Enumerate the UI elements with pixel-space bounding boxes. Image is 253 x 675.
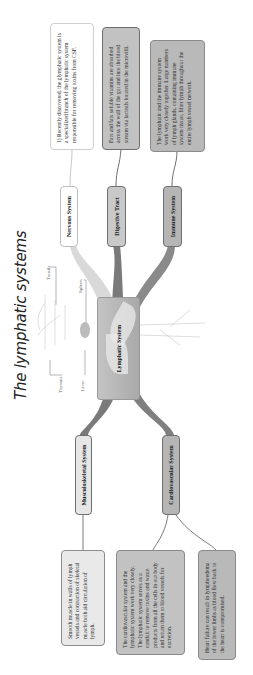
note-cardiovascular[interactable]: The cardiovascular system and the lympha… — [116, 550, 185, 655]
note-immune[interactable]: The lymphatic and the immune system work… — [150, 40, 205, 152]
topic-label: Cardiovascular System — [168, 445, 174, 504]
label-thymus: Thymus — [58, 377, 63, 393]
mind-map-canvas: The lymphatic systems Tonsils Spleen Thy… — [0, 0, 253, 675]
central-topic[interactable]: Lymphatic System — [97, 297, 140, 400]
label-tonsils: Tonsils — [46, 266, 51, 280]
topic-digestive-tract[interactable]: Digestive Tract — [107, 186, 126, 247]
topic-immune-system[interactable]: Immune System — [163, 186, 182, 247]
label-liver: Liver — [80, 380, 85, 391]
diagram-title: The lymphatic systems — [12, 231, 30, 400]
topic-musculoskeletal-system[interactable]: Musculoskeletal System — [75, 435, 92, 515]
note-heart-failure[interactable]: Heart failure can result in lymphoedema … — [198, 550, 236, 660]
note-digestive[interactable]: Fats and fats soluble vitamins are absor… — [102, 27, 140, 150]
topic-label: Nervous System — [66, 196, 72, 237]
note-glymphatic[interactable]: 1) Recently discovered, the glymphatic s… — [50, 23, 94, 150]
note-musculoskeletal[interactable]: Smooth muscle in walls of lymph vessels … — [61, 550, 105, 646]
central-topic-label: Lymphatic System — [116, 325, 122, 373]
topic-label: Musculoskeletal System — [81, 444, 87, 505]
label-spleen: Spleen — [78, 279, 83, 293]
topic-nervous-system[interactable]: Nervous System — [60, 186, 78, 247]
topic-cardiovascular-system[interactable]: Cardiovascular System — [162, 435, 180, 515]
topic-label: Digestive Tract — [114, 197, 120, 236]
topic-label: Immune System — [170, 196, 176, 238]
